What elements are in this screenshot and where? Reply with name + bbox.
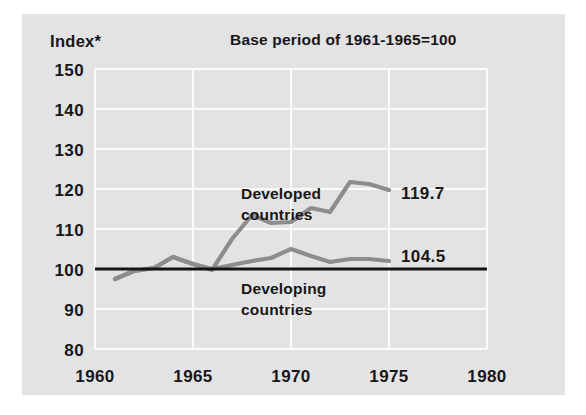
y-tick-110: 110 xyxy=(55,221,84,240)
x-tick-1965: 1965 xyxy=(173,367,212,386)
value-label-developing-104-5: 104.5 xyxy=(401,247,446,266)
x-tick-1960: 1960 xyxy=(75,367,114,386)
x-tick-1975: 1975 xyxy=(369,367,408,386)
chart-background xyxy=(22,14,565,395)
y-tick-80: 80 xyxy=(64,341,84,360)
y-tick-140: 140 xyxy=(54,101,84,120)
annotation-developing-line1: Developing xyxy=(241,280,327,297)
y-tick-150: 150 xyxy=(54,61,84,80)
y-tick-130: 130 xyxy=(54,141,84,160)
value-label-developed-119-7: 119.7 xyxy=(401,184,445,203)
x-tick-1980: 1980 xyxy=(467,367,506,386)
index-line-chart: 150 140 130 120 110 100 90 80 1960 1965 … xyxy=(22,14,565,395)
y-tick-120: 120 xyxy=(54,181,84,200)
y-axis-title: Index* xyxy=(50,32,102,50)
x-tick-1970: 1970 xyxy=(271,367,310,386)
y-tick-90: 90 xyxy=(64,301,84,320)
annotation-developing-line2: countries xyxy=(241,301,313,318)
y-tick-100: 100 xyxy=(54,261,84,280)
chart-card: 150 140 130 120 110 100 90 80 1960 1965 … xyxy=(22,14,565,395)
chart-title: Base period of 1961-1965=100 xyxy=(230,31,457,48)
annotation-developed-line2: countries xyxy=(241,206,313,223)
annotation-developed-line1: Developed xyxy=(241,185,321,202)
